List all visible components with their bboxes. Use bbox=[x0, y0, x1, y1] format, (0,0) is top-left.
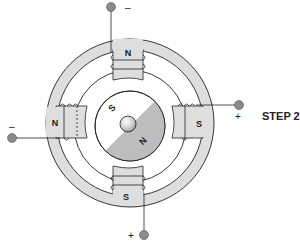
pole-right: S bbox=[172, 104, 212, 140]
sign-left: – bbox=[9, 121, 15, 132]
pole-top: N bbox=[111, 39, 145, 80]
stepper-motor-diagram: N N S S S N bbox=[0, 0, 300, 245]
sign-right: + bbox=[235, 111, 241, 122]
pole-bottom-label: S bbox=[123, 192, 129, 202]
step-label: STEP 2 bbox=[262, 110, 300, 122]
pole-right-label: S bbox=[196, 119, 202, 129]
pole-bottom: S bbox=[111, 166, 145, 204]
shaft bbox=[120, 116, 136, 132]
pole-left-label: N bbox=[52, 118, 59, 128]
sign-top: – bbox=[125, 2, 131, 13]
terminal-top bbox=[107, 3, 116, 12]
sign-bottom: + bbox=[128, 230, 134, 241]
terminal-right bbox=[235, 101, 244, 110]
terminal-bottom bbox=[140, 231, 149, 240]
rotor: S N bbox=[95, 91, 165, 161]
terminal-left bbox=[8, 134, 17, 143]
pole-left: N bbox=[46, 104, 87, 140]
pole-top-label: N bbox=[125, 48, 132, 58]
